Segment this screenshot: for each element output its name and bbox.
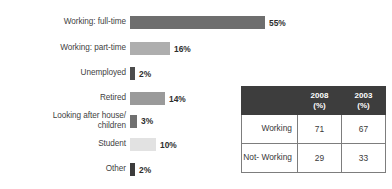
bar-row: Unemployed 2% [0, 65, 300, 82]
bar-value-label: 2% [139, 165, 151, 175]
bar-value-label: 10% [160, 140, 177, 150]
bar-category-label: Working: part-time [0, 43, 130, 53]
table-row: Working 71 67 [242, 115, 386, 144]
bar-fill [130, 42, 170, 55]
bar-track: 55% [130, 14, 300, 31]
column-header-unit: (%) [298, 101, 341, 111]
bar-fill [130, 115, 137, 128]
bar-value-label: 2% [139, 69, 151, 79]
table-row-header: Not- Working [242, 144, 298, 173]
bar-row: Working: part-time 16% [0, 40, 300, 57]
column-header-year: 2008 [298, 91, 341, 101]
employment-status-figure: Working: full-time 55% Working: part-tim… [0, 0, 392, 189]
table-cell: 71 [298, 115, 342, 144]
column-header-unit: (%) [342, 101, 385, 111]
bar-fill [130, 138, 156, 151]
table-column-header-2008: 2008 (%) [298, 87, 342, 115]
bar-fill [130, 16, 265, 29]
table-corner-header [242, 87, 298, 115]
table-body: Working 71 67 Not- Working 29 33 [242, 115, 386, 173]
bar-track: 2% [130, 65, 300, 82]
bar-fill [130, 67, 135, 80]
bar-track: 16% [130, 40, 300, 57]
table-header-row: 2008 (%) 2003 (%) [242, 87, 386, 115]
bar-row: Working: full-time 55% [0, 14, 300, 31]
table-cell: 33 [342, 144, 386, 173]
bar-value-label: 3% [141, 116, 153, 126]
bar-category-label: Unemployed [0, 68, 130, 78]
table-cell: 67 [342, 115, 386, 144]
table-header: 2008 (%) 2003 (%) [242, 87, 386, 115]
bar-value-label: 16% [174, 44, 191, 54]
bar-category-label: Looking after house/ children [0, 111, 130, 131]
column-header-year: 2003 [342, 91, 385, 101]
table-cell: 29 [298, 144, 342, 173]
table-column-header-2003: 2003 (%) [342, 87, 386, 115]
bar-value-label: 14% [169, 94, 186, 104]
working-summary-table: 2008 (%) 2003 (%) Working 71 67 Not- Wor… [241, 86, 386, 173]
bar-category-label: Working: full-time [0, 17, 130, 27]
table-row-header: Working [242, 115, 298, 144]
bar-category-label: Retired [0, 93, 130, 103]
bar-category-label: Other [0, 164, 130, 174]
table-row: Not- Working 29 33 [242, 144, 386, 173]
bar-value-label: 55% [269, 18, 286, 28]
bar-fill [130, 163, 135, 176]
bar-category-label: Student [0, 139, 130, 149]
bar-fill [130, 92, 165, 105]
